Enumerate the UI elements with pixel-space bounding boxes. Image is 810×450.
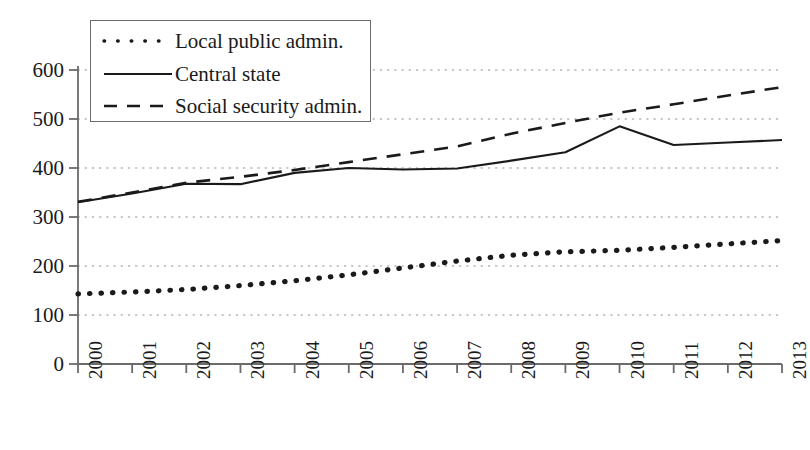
y-axis-tick-label: 0 [8, 354, 64, 375]
x-axis-tick-label: 2006 [411, 341, 430, 379]
y-axis-tick-label: 200 [8, 256, 64, 277]
x-axis-tick-label: 2007 [465, 341, 484, 379]
legend-label-central-state: Central state [175, 64, 281, 85]
x-axis-tick-label: 2005 [357, 341, 376, 379]
series-line-local-public-admin [78, 241, 782, 294]
x-axis-tick-label: 2009 [573, 341, 592, 379]
x-axis-tick-label: 2004 [303, 341, 322, 379]
legend-label-local-public-admin: Local public admin. [175, 31, 344, 52]
legend-swatch-dashed-icon [101, 96, 175, 116]
legend-item-central-state: Central state [91, 57, 370, 91]
x-axis-tick-label: 2008 [519, 341, 538, 379]
x-axis-tick-label: 2003 [248, 341, 267, 379]
y-axis-ticks [69, 70, 78, 364]
x-axis-tick-label: 2012 [736, 341, 755, 379]
series-line-central-state [78, 126, 782, 202]
x-axis-tick-label: 2000 [86, 341, 105, 379]
y-axis-tick-label: 300 [8, 207, 64, 228]
x-axis-tick-label: 2010 [628, 341, 647, 379]
y-axis-tick-label: 100 [8, 305, 64, 326]
legend-item-social-security-admin: Social security admin. [91, 89, 370, 123]
x-axis-tick-label: 2001 [140, 341, 159, 379]
y-axis-tick-label: 400 [8, 158, 64, 179]
legend-label-social-security-admin: Social security admin. [175, 96, 362, 117]
x-axis-tick-label: 2002 [194, 341, 213, 379]
legend-item-local-public-admin: Local public admin. [91, 24, 370, 58]
y-axis-tick-label: 600 [8, 60, 64, 81]
x-axis-tick-label: 2013 [790, 341, 809, 379]
y-axis-tick-label: 500 [8, 109, 64, 130]
x-axis-tick-label: 2011 [682, 342, 701, 379]
legend: Local public admin. Central state Social… [90, 20, 371, 122]
legend-swatch-dotted-icon [101, 31, 175, 51]
legend-swatch-solid-icon [101, 64, 175, 84]
